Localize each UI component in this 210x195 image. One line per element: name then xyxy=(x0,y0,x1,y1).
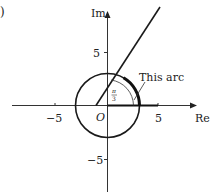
highlighted-arc xyxy=(124,78,140,106)
half-line xyxy=(96,7,160,106)
angle-denominator: 3 xyxy=(112,95,116,102)
angle-numerator: π xyxy=(111,87,117,94)
argand-diagram: ) Im Re O −5 5 5 −5 This arc π 3 xyxy=(0,0,210,195)
part-label: ) xyxy=(0,5,5,19)
x-tick-label-5: 5 xyxy=(155,112,162,125)
y-axis-label: Im xyxy=(91,7,106,20)
x-tick-label-neg5: −5 xyxy=(46,112,62,125)
y-tick-label-5: 5 xyxy=(93,47,100,60)
y-tick-label-neg5: −5 xyxy=(87,154,103,167)
origin-label: O xyxy=(96,111,105,124)
x-axis-label: Re xyxy=(195,112,210,125)
annotation-label: This arc xyxy=(139,71,184,84)
